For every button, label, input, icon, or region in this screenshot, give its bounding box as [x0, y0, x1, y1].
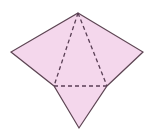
pyramid-net-svg	[0, 0, 156, 137]
pyramid-net-figure	[0, 0, 156, 137]
